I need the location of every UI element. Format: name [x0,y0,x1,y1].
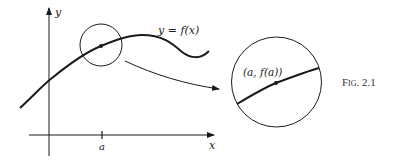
y-axis-label: y [54,6,62,19]
magnified-point-dot [274,81,278,85]
x-axis-label: x [209,139,216,152]
figure-caption: Fig. 2.1 [342,76,376,88]
function-curve [20,35,209,108]
point-label: (a, f(a)) [243,66,282,78]
figure-canvas: x y a y = f(x) (a, f(a)) Fig. 2.1 [0,0,399,160]
magnify-arrow [125,61,219,89]
point-a-dot [99,44,103,48]
tick-a-label: a [99,141,105,152]
curve-label: y = f(x) [157,24,199,37]
magnified-view: (a, f(a)) [232,37,322,127]
